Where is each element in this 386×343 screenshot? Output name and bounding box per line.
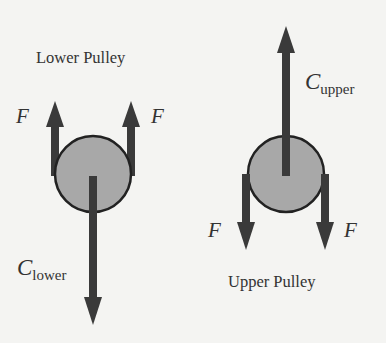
upper-right-force-arrow-icon — [316, 222, 334, 250]
pulley-free-body-diagram: Lower Pulley F F Clower Cupper F F Upper… — [0, 0, 386, 343]
upper-left-force-arrow-icon — [237, 222, 255, 250]
c-lower-label: Clower — [17, 256, 67, 279]
upper-center-force-arrow-icon — [277, 26, 295, 53]
c-lower-main: C — [17, 255, 32, 280]
lower-center-force-arrow-icon — [84, 297, 102, 325]
upper-right-force-label: F — [344, 220, 357, 241]
c-upper-main: C — [305, 69, 320, 94]
c-upper-subscript: upper — [320, 81, 354, 97]
upper-right-rope — [321, 174, 329, 226]
lower-right-force-arrow-icon — [122, 101, 140, 127]
upper-pulley — [237, 26, 334, 250]
lower-pulley — [46, 101, 140, 325]
lower-pulley-title: Lower Pulley — [36, 50, 125, 67]
upper-left-force-label: F — [208, 220, 221, 241]
lower-left-force-arrow-icon — [46, 101, 64, 127]
lower-right-force-label: F — [151, 106, 164, 127]
lower-center-shaft — [89, 176, 97, 300]
upper-pulley-title: Upper Pulley — [228, 274, 316, 291]
c-upper-label: Cupper — [305, 70, 355, 93]
c-lower-subscript: lower — [32, 267, 66, 283]
upper-center-shaft — [282, 50, 290, 176]
upper-left-rope — [242, 174, 250, 226]
lower-left-force-label: F — [16, 106, 29, 127]
